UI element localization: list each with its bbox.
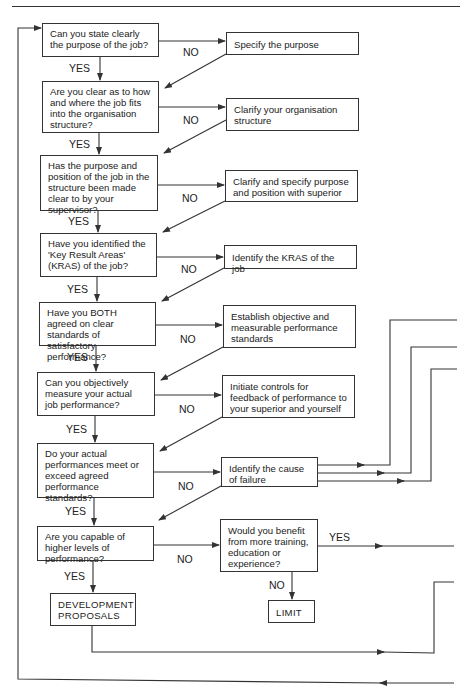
question-box-purpose: Can you state clearly the purpose of the… bbox=[42, 23, 159, 57]
question-box-measure: Can you objectively measure your actual … bbox=[37, 372, 155, 416]
action-box-establish-standards: Establish objective and measurable perfo… bbox=[223, 305, 356, 348]
action-box-clarify-structure: Clarify your organisation structure bbox=[226, 98, 359, 131]
action-box-cause-of-failure: Identify the cause of failure bbox=[221, 457, 318, 487]
question-box-standards: Have you BOTH agreed on clear standards … bbox=[39, 302, 156, 346]
action-box-identify-kras: Identify the KRAS of the job bbox=[224, 245, 357, 269]
training-no-label: NO bbox=[269, 579, 285, 591]
yes-label: YES bbox=[68, 215, 89, 227]
no-label: NO bbox=[180, 333, 196, 345]
no-label: NO bbox=[183, 114, 199, 126]
no-label: NO bbox=[181, 263, 197, 275]
yes-label: YES bbox=[66, 423, 87, 435]
question-box-supervisor: Has the purpose and position of the job … bbox=[40, 155, 158, 211]
yes-label: YES bbox=[64, 570, 85, 582]
training-yes-label: YES bbox=[329, 531, 350, 543]
yes-label: YES bbox=[69, 138, 90, 150]
yes-label: YES bbox=[65, 505, 86, 517]
yes-label: YES bbox=[69, 62, 90, 74]
yes-label: YES bbox=[67, 351, 88, 363]
no-label: NO bbox=[182, 192, 198, 204]
no-label: NO bbox=[177, 553, 193, 565]
question-box-meet-standards: Do your actual performances meet or exce… bbox=[37, 443, 154, 498]
outcome-limit: LIMIT bbox=[268, 600, 315, 623]
no-label: NO bbox=[179, 403, 195, 415]
outcome-development-proposals: DEVELOPMENT PROPOSALS bbox=[50, 593, 136, 626]
yes-label: YES bbox=[67, 283, 88, 295]
no-label: NO bbox=[183, 46, 199, 58]
question-box-kras: Have you identified the 'Key Result Area… bbox=[40, 233, 157, 277]
no-label: NO bbox=[178, 480, 194, 492]
question-box-higher-levels: Are you capable of higher levels of perf… bbox=[37, 526, 154, 561]
action-box-clarify-position: Clarify and specify purpose and position… bbox=[225, 170, 358, 202]
question-box-organisation: Are you clear as to how and where the jo… bbox=[42, 81, 159, 133]
action-box-initiate-controls: Initiate controls for feedback of perfor… bbox=[222, 375, 355, 418]
question-box-training: Would you benefit from more training, ed… bbox=[220, 519, 318, 572]
action-box-specify-purpose: Specify the purpose bbox=[226, 32, 359, 55]
